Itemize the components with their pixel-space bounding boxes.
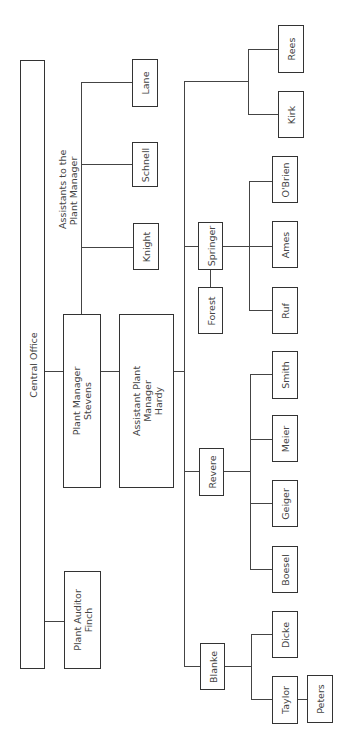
- staff-kirk-box: Kirk: [278, 91, 304, 138]
- connector: [81, 247, 133, 248]
- connector: [210, 270, 211, 287]
- connector: [248, 49, 278, 50]
- plant-manager-box: Plant Manager Stevens: [63, 314, 101, 488]
- staff-geiger-box: Geiger: [272, 480, 298, 527]
- staff-ruf-box: Ruf: [272, 287, 298, 334]
- connector: [250, 374, 251, 570]
- connector: [249, 310, 272, 311]
- dept-head-revere-box: Revere: [199, 448, 224, 496]
- staff-dicke-box: Dicke: [272, 611, 298, 658]
- central-office-label: Central Office: [27, 332, 38, 397]
- connector: [101, 371, 119, 372]
- assistants-label: Assistants to the Plant Manager: [57, 153, 83, 229]
- connector: [223, 246, 249, 247]
- connector: [184, 246, 198, 247]
- connector: [184, 81, 248, 82]
- connector: [250, 503, 272, 504]
- staff-taylor-box: Taylor: [272, 676, 298, 724]
- dept-head-blanke-box: Blanke: [200, 643, 225, 690]
- staff-rees-box: Rees: [278, 25, 304, 73]
- staff-obrien-box: O'Brien: [272, 156, 298, 203]
- assistant-lane-box: Lane: [132, 59, 158, 107]
- central-office-box: Central Office: [20, 60, 45, 669]
- connector: [81, 82, 132, 83]
- connector: [251, 634, 252, 700]
- connector: [174, 371, 184, 372]
- staff-peters-box: Peters: [307, 675, 333, 723]
- connector: [184, 471, 199, 472]
- staff-boesel-box: Boesel: [272, 546, 298, 593]
- plant-auditor-box: Plant Auditor Finch: [64, 571, 101, 669]
- connector: [224, 471, 250, 472]
- assistant-plant-manager-label: Assistant Plant Manager Hardy: [130, 366, 163, 436]
- plant-manager-label: Plant Manager Stevens: [71, 367, 93, 436]
- connector: [248, 49, 249, 115]
- connector: [298, 699, 307, 700]
- connector: [45, 371, 64, 372]
- connector: [45, 621, 64, 622]
- assistant-plant-manager-box: Assistant Plant Manager Hardy: [119, 314, 174, 488]
- assistant-schnell-box: Schnell: [132, 142, 158, 187]
- connector: [250, 569, 272, 570]
- connector: [250, 439, 272, 440]
- connector: [184, 81, 185, 667]
- deputy-forest-box: Forest: [198, 287, 223, 334]
- connector: [250, 374, 272, 375]
- connector: [184, 666, 200, 667]
- connector: [81, 164, 132, 165]
- assistant-knight-box: Knight: [133, 223, 159, 270]
- dept-head-springer-box: Springer: [198, 222, 223, 270]
- connector: [225, 666, 251, 667]
- connector: [249, 181, 272, 182]
- connector: [249, 246, 272, 247]
- connector: [251, 699, 272, 700]
- plant-auditor-label: Plant Auditor Finch: [72, 589, 94, 651]
- staff-ames-box: Ames: [272, 221, 298, 268]
- connector: [251, 634, 272, 635]
- staff-meier-box: Meier: [272, 415, 298, 462]
- connector: [248, 114, 278, 115]
- staff-smith-box: Smith: [272, 351, 298, 399]
